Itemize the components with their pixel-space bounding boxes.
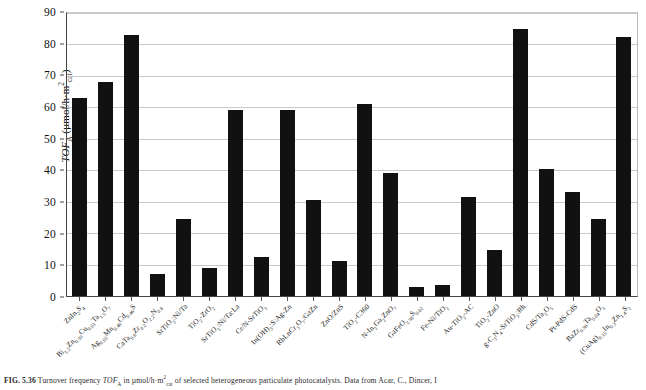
bar-slot: [326, 13, 352, 296]
x-tick-mark: [495, 297, 496, 301]
y-tick-label: 30: [44, 196, 56, 208]
bar: [228, 110, 243, 296]
y-tick-mark: [60, 202, 64, 203]
x-tick-mark: [131, 297, 132, 301]
x-tick-mark: [209, 297, 210, 301]
x-label-slot: RbLnCr3O7:GaZn: [300, 302, 326, 372]
x-tick-mark: [443, 297, 444, 301]
x-tick-mark: [625, 297, 626, 301]
x-tick-mark: [547, 297, 548, 301]
y-tick-mark: [60, 233, 64, 234]
x-tick-mark: [105, 297, 106, 301]
figure-caption: FIG. 5.36 Turnover frequency TOFA in µmo…: [4, 374, 644, 390]
x-tick-mark: [599, 297, 600, 301]
x-label-slot: ZnO/ZnS: [326, 302, 352, 372]
bar-slot: [145, 13, 171, 296]
figure-container: TOFA (µmol/h·m2cat) 0102030405060708090 …: [0, 0, 646, 390]
bar: [409, 287, 424, 296]
bar: [124, 35, 139, 296]
y-tick-mark: [60, 12, 64, 13]
x-label-slot: Au-TiO2-AC: [456, 302, 482, 372]
bar: [616, 37, 631, 296]
x-tick-mark: [79, 297, 80, 301]
bar: [202, 268, 217, 296]
bar-slot: [274, 13, 300, 296]
x-label-slot: (CuAg)0.15In0.3Zn1.4S2: [612, 302, 638, 372]
x-axis-labels: ZnIn2S4Bi1.2Zn0.99Cu0.01Ta1.5O7Ag0.03Mn0…: [66, 302, 638, 372]
caption-text: Turnover frequency TOFA in µmol/h·m2cat …: [38, 376, 437, 385]
bar: [565, 192, 580, 296]
bar-slot: [171, 13, 197, 296]
bar: [487, 250, 502, 296]
x-label-slot: g-C3N4-SrTiO3:Rh: [508, 302, 534, 372]
x-tick-mark: [521, 297, 522, 301]
bar: [461, 197, 476, 296]
x-tick-mark: [157, 297, 158, 301]
y-tick-label: 0: [50, 291, 56, 303]
x-tick-mark: [573, 297, 574, 301]
caption-figure-number: FIG. 5.36: [4, 376, 36, 385]
x-label-slot: CdS/Ta2O5: [534, 302, 560, 372]
y-tick-label: 70: [44, 69, 56, 81]
x-label-slot: Fe-Ni/TiO2: [430, 302, 456, 372]
plot-area: [66, 12, 638, 297]
bar: [150, 274, 165, 296]
bar-slot: [67, 13, 93, 296]
y-tick-mark: [60, 265, 64, 266]
bar: [357, 104, 372, 296]
bar: [72, 98, 87, 296]
bar-slot: [533, 13, 559, 296]
bar-slot: [378, 13, 404, 296]
x-tick-mark: [287, 297, 288, 301]
bar-slot: [248, 13, 274, 296]
x-label-slot: GaFeO2.98S0.02: [404, 302, 430, 372]
bar-slot: [197, 13, 223, 296]
bar: [383, 173, 398, 296]
x-tick-mark: [183, 297, 184, 301]
x-tick-mark: [365, 297, 366, 301]
bar-slot: [611, 13, 637, 296]
bar-slot: [222, 13, 248, 296]
bar-slot: [507, 13, 533, 296]
x-tick-mark: [261, 297, 262, 301]
x-tick-mark: [391, 297, 392, 301]
y-tick-mark: [60, 138, 64, 139]
x-label-slot: CaTa0.8Zr0.2O2.2N0.8: [144, 302, 170, 372]
x-tick-mark: [417, 297, 418, 301]
bar: [332, 261, 347, 296]
bar-slot: [482, 13, 508, 296]
bar: [254, 257, 269, 296]
y-tick-label: 40: [44, 164, 56, 176]
y-tick-mark: [60, 170, 64, 171]
bar-slot: [456, 13, 482, 296]
bar-slot: [119, 13, 145, 296]
bar: [591, 219, 606, 296]
y-tick-label: 90: [44, 6, 56, 18]
bar-slot: [300, 13, 326, 296]
y-tick-label: 20: [44, 228, 56, 240]
bar: [539, 169, 554, 296]
y-tick-mark: [60, 43, 64, 44]
y-tick-mark: [60, 107, 64, 108]
x-label-slot: SrTiO3:Ni/Ta:La: [222, 302, 248, 372]
bar: [435, 285, 450, 296]
bar-slot: [404, 13, 430, 296]
bar: [280, 110, 295, 296]
x-tick-mark: [469, 297, 470, 301]
bar-slot: [93, 13, 119, 296]
bar-slot: [352, 13, 378, 296]
y-tick-mark: [60, 297, 64, 298]
y-tick-label: 50: [44, 133, 56, 145]
y-tick-label: 60: [44, 101, 56, 113]
y-axis-ticks: 0102030405060708090: [0, 12, 64, 297]
x-tick-mark: [313, 297, 314, 301]
x-tick-mark: [235, 297, 236, 301]
bar: [513, 29, 528, 296]
x-label-slot: SrTiO3:Ni/Ta: [170, 302, 196, 372]
bar: [98, 82, 113, 296]
bar-series: [67, 13, 637, 296]
bar-slot: [585, 13, 611, 296]
y-tick-label: 10: [44, 259, 56, 271]
x-tick-mark: [339, 297, 340, 301]
y-tick-mark: [60, 75, 64, 76]
